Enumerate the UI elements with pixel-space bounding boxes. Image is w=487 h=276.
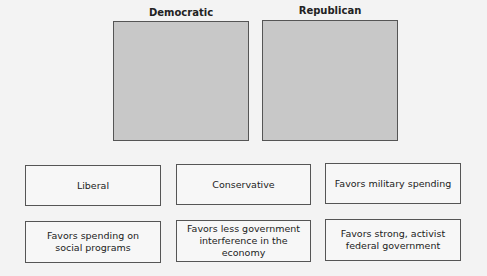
republican-column-title: Republican xyxy=(262,5,398,16)
card-liberal[interactable]: Liberal xyxy=(25,165,161,206)
card-favors-strong-federal-government[interactable]: Favors strong, activist federal governme… xyxy=(325,219,461,261)
democratic-drop-zone[interactable] xyxy=(113,21,249,141)
republican-drop-zone[interactable] xyxy=(262,20,398,141)
card-conservative[interactable]: Conservative xyxy=(176,164,311,205)
democratic-column-title: Democratic xyxy=(113,7,249,18)
card-favors-social-spending[interactable]: Favors spending on social programs xyxy=(25,221,161,263)
card-favors-military-spending[interactable]: Favors military spending xyxy=(325,163,461,204)
card-favors-less-government-interference[interactable]: Favors less government interference in t… xyxy=(176,220,311,262)
